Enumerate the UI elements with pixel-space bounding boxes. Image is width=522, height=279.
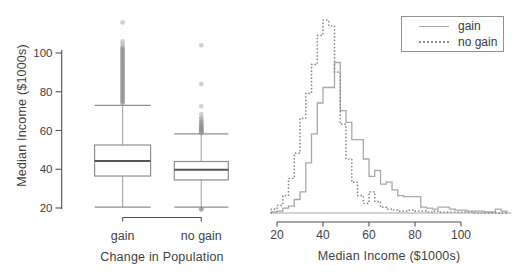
outlier-point: [199, 43, 204, 48]
histogram-panel: 20406080100 Median Income ($1000s) gain …: [261, 0, 522, 279]
category-label: gain: [111, 229, 135, 243]
x-tick-label: 20: [270, 228, 284, 242]
y-tick-label: 80: [40, 86, 53, 98]
category-label: no gain: [181, 229, 222, 243]
x-tick-label: 40: [316, 228, 330, 242]
y-tick-label: 20: [40, 202, 53, 214]
figure-canvas: 20406080100gainno gain Median Income ($1…: [0, 0, 522, 279]
legend-item-gain: gain: [402, 19, 503, 34]
y-tick-label: 100: [33, 47, 52, 59]
outlier-point: [120, 20, 125, 25]
boxplot-svg: 20406080100gainno gain: [0, 0, 261, 279]
outlier-point: [199, 82, 204, 87]
y-tick-label: 60: [40, 125, 53, 137]
boxplot-y-axis-title: Median Income ($1000s): [15, 19, 30, 213]
boxplot-x-axis-title: Change in Population: [72, 250, 252, 264]
outlier-point: [199, 112, 204, 117]
legend-box: gain no gain: [401, 16, 504, 52]
outlier-point: [120, 39, 125, 44]
solid-line-sample-icon: [419, 26, 449, 27]
legend-item-no-gain: no gain: [402, 35, 503, 50]
x-tick-label: 80: [408, 228, 422, 242]
histogram-x-axis-title: Median Income ($1000s): [309, 249, 469, 263]
outlier-point: [199, 206, 204, 211]
legend-label-no-gain: no gain: [458, 36, 497, 49]
legend-label-gain: gain: [458, 20, 481, 33]
outlier-point: [199, 104, 204, 109]
x-tick-label: 60: [362, 228, 376, 242]
histogram-outline-gain: [271, 63, 507, 214]
iqr-box-no-gain: [174, 162, 228, 180]
y-tick-label: 40: [40, 163, 53, 175]
dotted-line-sample-icon: [419, 41, 449, 43]
boxplot-panel: 20406080100gainno gain Median Income ($1…: [0, 0, 261, 279]
x-tick-label: 100: [451, 228, 471, 242]
